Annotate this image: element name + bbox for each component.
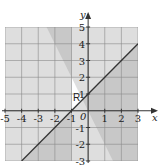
x-tick-label: -2	[50, 113, 60, 124]
x-tick-label: -5	[0, 113, 10, 124]
x-tick-label: 2	[118, 113, 124, 124]
y-tick-label: 3	[79, 56, 85, 67]
y-tick-label: -3	[75, 156, 85, 167]
origin-label: 0	[80, 111, 87, 122]
y-tick-label: 2	[79, 72, 85, 83]
x-tick-label: 3	[135, 113, 141, 124]
y-axis-label: y	[79, 9, 86, 20]
region-r-label: R	[73, 92, 80, 103]
x-tick-label: 1	[102, 113, 108, 124]
x-tick-label: -3	[33, 113, 43, 124]
x-tick-label: -4	[17, 113, 27, 124]
y-tick-label: 4	[79, 39, 85, 50]
y-axis-arrow-icon	[85, 12, 91, 19]
inequality-graph: -5-4-3-2-112354321-1-2-3 x y 0 R	[0, 0, 163, 168]
y-tick-label: -1	[75, 123, 85, 134]
y-tick-label: 5	[79, 22, 85, 33]
x-axis-label: x	[152, 112, 158, 123]
y-tick-label: -2	[75, 139, 85, 150]
